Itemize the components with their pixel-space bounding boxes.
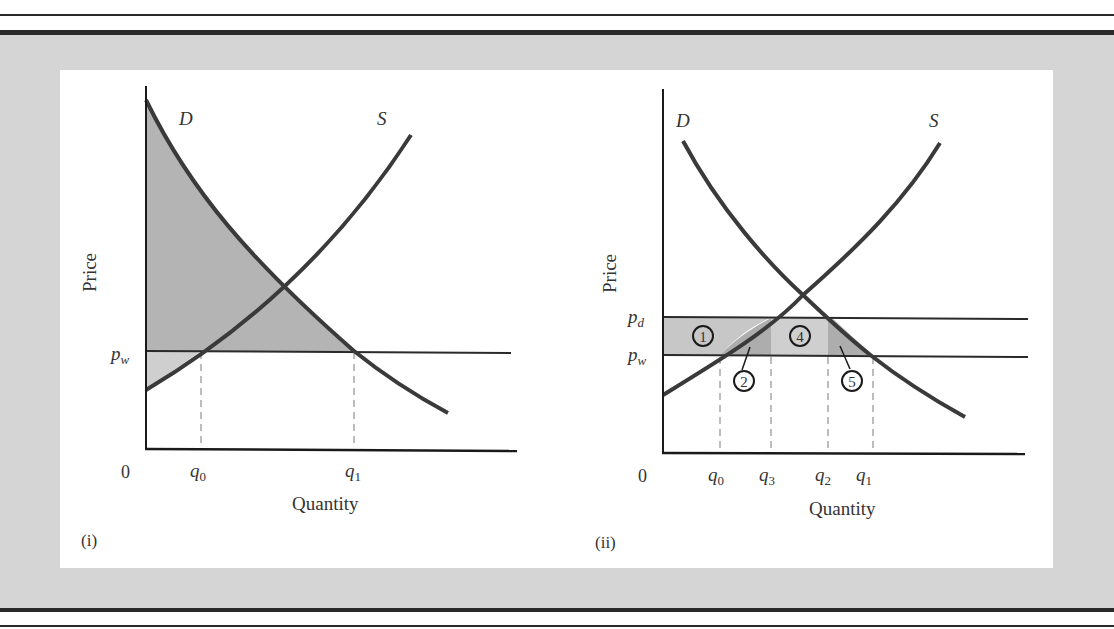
q1-label-ii: q1 [856, 464, 872, 488]
y-axis-label-ii: Price [599, 254, 620, 293]
origin-label: 0 [121, 462, 130, 482]
supply-label: S [377, 108, 387, 129]
svg-text:5: 5 [848, 374, 856, 390]
q1-label: q1 [345, 460, 361, 484]
panel-label-i: (i) [81, 531, 97, 550]
origin-label-ii: 0 [638, 466, 647, 486]
demand-label-ii: D [675, 110, 690, 131]
consumer-surplus-region [146, 100, 354, 351]
chart-panel-i: D S Price pw 0 q0 q1 Quantity (i) [79, 86, 517, 550]
x-axis-label: Quantity [292, 493, 359, 514]
x-axis-ii [662, 453, 1025, 454]
figure-svg: D S Price pw 0 q0 q1 Quantity (i) 1 [0, 0, 1114, 629]
demand-label: D [178, 108, 193, 129]
x-axis [145, 449, 517, 451]
svg-text:2: 2 [740, 374, 748, 390]
q2-label: q2 [815, 464, 831, 488]
pw-label-ii: pw [626, 344, 647, 368]
y-axis-label: Price [79, 253, 100, 292]
q3-label: q3 [759, 464, 775, 488]
q0-label: q0 [190, 460, 206, 484]
svg-text:1: 1 [699, 329, 707, 345]
supply-label-ii: S [929, 110, 939, 131]
q0-label-ii: q0 [708, 464, 724, 488]
x-axis-label-ii: Quantity [809, 498, 876, 519]
svg-text:4: 4 [796, 329, 804, 345]
pd-label: pd [626, 306, 645, 330]
world-price-line-ii [663, 355, 1028, 357]
pw-label: pw [109, 343, 130, 367]
demand-curve-ii [683, 141, 965, 417]
panel-label-ii: (ii) [595, 533, 616, 552]
chart-panel-ii: 1 2 4 5 D S Price pd pw 0 q0 q3 q2 q1 Qu… [595, 89, 1028, 552]
